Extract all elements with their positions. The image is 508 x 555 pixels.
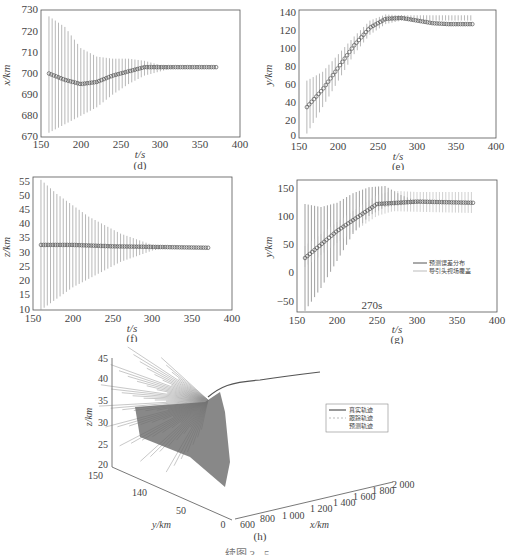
chart-f-svg: 150 200 250 300 350 400 10 15 20 25 30 3…: [0, 172, 250, 342]
svg-text:150: 150: [289, 314, 306, 326]
svg-text:50: 50: [19, 189, 31, 201]
svg-text:1 000: 1 000: [282, 510, 305, 521]
panel-label: (f): [127, 332, 138, 342]
svg-text:25: 25: [19, 260, 31, 272]
svg-text:250: 250: [370, 140, 387, 152]
panel-label: (h): [80, 530, 440, 542]
legend-g: 预测误差分布 导引头视场覆盖: [413, 259, 471, 275]
svg-text:0: 0: [291, 129, 297, 141]
svg-text:45: 45: [19, 203, 31, 215]
chart-panel-f: 150 200 250 300 350 400 10 15 20 25 30 3…: [0, 172, 250, 342]
svg-text:1 200: 1 200: [310, 503, 333, 514]
y-axis-label: x/km: [0, 65, 12, 87]
true-trajectory-line: [208, 372, 320, 397]
svg-text:140: 140: [132, 487, 147, 498]
svg-text:350: 350: [449, 314, 466, 326]
svg-text:20: 20: [98, 459, 108, 470]
legend-item-predicted-track: 预测轨迹: [349, 422, 373, 430]
svg-text:−50: −50: [277, 295, 295, 307]
svg-text:80: 80: [285, 60, 297, 72]
chart-panel-e: 150 200 250 300 350 400 0 20 40 60 80 10…: [250, 0, 508, 170]
svg-text:35: 35: [19, 231, 31, 243]
chart-h-svg: 45 40 35 30 25 20 150 140 50 0 600 800 1…: [80, 342, 440, 542]
svg-text:670: 670: [22, 130, 39, 142]
chart-g-svg: 150 200 250 300 350 400 −50 0 50 100 150…: [250, 172, 508, 344]
svg-text:150: 150: [278, 182, 295, 194]
svg-text:800: 800: [260, 513, 275, 524]
chart-e-svg: 150 200 250 300 350 400 0 20 40 60 80 10…: [250, 0, 508, 170]
svg-text:300: 300: [409, 314, 426, 326]
svg-text:300: 300: [144, 312, 161, 324]
svg-text:40: 40: [285, 96, 297, 108]
y-axis-label: y/km: [262, 65, 274, 87]
svg-text:60: 60: [285, 78, 297, 90]
svg-text:45: 45: [98, 353, 108, 364]
svg-text:50: 50: [283, 238, 295, 250]
svg-text:690: 690: [22, 88, 39, 100]
svg-text:100: 100: [280, 42, 297, 54]
chart-panel-d: 150 200 250 300 350 400 670 680 690 700 …: [0, 0, 250, 170]
svg-text:200: 200: [329, 314, 346, 326]
figure-caption: 续图 3 - 5 …: [0, 545, 508, 555]
chart-panel-g: 150 200 250 300 350 400 −50 0 50 100 150…: [250, 172, 508, 344]
panel-label: (d): [134, 159, 147, 170]
panel-label: (e): [392, 160, 405, 170]
legend-h: 真实轨迹 跟踪轨迹 预测轨迹: [326, 404, 388, 432]
y-axis-label: y/km: [262, 237, 274, 259]
legend-item-prediction-error: 预测误差分布: [429, 259, 465, 267]
svg-text:200: 200: [330, 140, 347, 152]
chart-panel-h: 45 40 35 30 25 20 150 140 50 0 600 800 1…: [80, 342, 440, 542]
svg-text:120: 120: [280, 24, 297, 36]
svg-text:55: 55: [19, 175, 31, 187]
svg-text:25: 25: [98, 439, 108, 450]
svg-text:20: 20: [19, 274, 31, 286]
svg-text:150: 150: [291, 140, 308, 152]
svg-text:150: 150: [88, 470, 103, 481]
chart-d-svg: 150 200 250 300 350 400 670 680 690 700 …: [0, 0, 250, 170]
svg-text:400: 400: [224, 312, 241, 324]
legend-item-true-track: 真实轨迹: [349, 406, 373, 414]
svg-text:20: 20: [285, 114, 297, 126]
svg-text:400: 400: [488, 140, 505, 152]
svg-text:10: 10: [19, 303, 31, 315]
svg-text:0: 0: [221, 519, 226, 530]
svg-text:2 000: 2 000: [392, 479, 415, 490]
svg-text:40: 40: [19, 217, 31, 229]
svg-text:30: 30: [19, 246, 31, 258]
svg-text:710: 710: [22, 46, 39, 58]
svg-text:40: 40: [98, 373, 108, 384]
svg-text:720: 720: [22, 25, 39, 37]
z-axis-label: z/km: [83, 408, 94, 427]
svg-text:250: 250: [105, 312, 122, 324]
svg-text:350: 350: [448, 140, 465, 152]
svg-text:400: 400: [489, 314, 506, 326]
svg-text:600: 600: [240, 519, 255, 530]
svg-text:350: 350: [192, 138, 209, 150]
svg-text:200: 200: [73, 138, 90, 150]
svg-text:35: 35: [98, 395, 108, 406]
y-axis-label: z/km: [0, 237, 12, 258]
svg-text:680: 680: [22, 109, 39, 121]
svg-text:250: 250: [369, 314, 386, 326]
svg-text:0: 0: [289, 266, 295, 278]
svg-text:140: 140: [280, 6, 297, 18]
svg-text:50: 50: [176, 505, 186, 516]
x-axis-label: x/km: [309, 519, 329, 530]
svg-text:300: 300: [409, 140, 426, 152]
legend-item-seeker-fov: 导引头视场覆盖: [429, 267, 471, 275]
annotation-270s: 270s: [362, 299, 383, 311]
svg-text:730: 730: [22, 3, 39, 15]
svg-text:100: 100: [278, 210, 295, 222]
svg-text:15: 15: [19, 288, 31, 300]
svg-text:400: 400: [232, 138, 249, 150]
svg-text:350: 350: [184, 312, 201, 324]
svg-text:30: 30: [98, 417, 108, 428]
svg-text:250: 250: [113, 138, 130, 150]
svg-text:200: 200: [65, 312, 82, 324]
y-axis-label: y/km: [151, 519, 171, 530]
legend-item-tracking-track: 跟踪轨迹: [349, 414, 373, 422]
svg-text:700: 700: [22, 67, 39, 79]
svg-text:300: 300: [152, 138, 169, 150]
